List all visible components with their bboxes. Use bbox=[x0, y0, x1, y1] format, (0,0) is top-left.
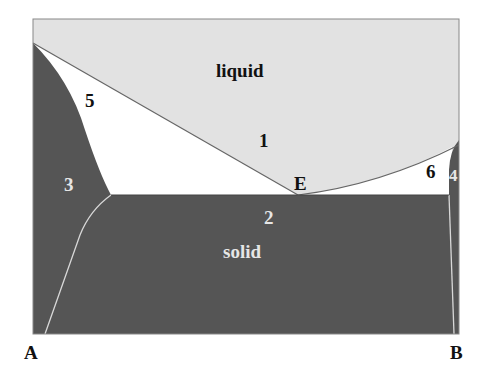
solid-label: solid bbox=[223, 242, 261, 261]
region-2-label: 2 bbox=[264, 208, 274, 227]
region-6-label: 6 bbox=[426, 162, 436, 181]
liquid-label: liquid bbox=[216, 61, 264, 80]
component-b-label: B bbox=[450, 343, 463, 362]
region-4-label: 4 bbox=[449, 167, 458, 184]
region-5-label: 5 bbox=[85, 91, 95, 110]
eutectic-point-label: E bbox=[294, 174, 307, 193]
region-1-label: 1 bbox=[259, 131, 269, 150]
component-a-label: A bbox=[24, 343, 38, 362]
region-3-label: 3 bbox=[64, 175, 74, 194]
